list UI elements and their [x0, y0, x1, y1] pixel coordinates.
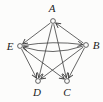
edge-E-B — [23, 43, 82, 46]
node-C — [65, 79, 70, 84]
node-label-C: C — [63, 86, 71, 98]
node-D — [36, 79, 41, 84]
figure-canvas: AEBDC — [0, 0, 103, 102]
node-label-B: B — [93, 39, 100, 51]
edge-B-A — [56, 23, 84, 43]
node-label-A: A — [48, 2, 56, 14]
node-A — [51, 19, 56, 24]
directed-graph-figure: AEBDC — [0, 0, 103, 102]
edge-B-E — [23, 46, 83, 51]
labels-layer: AEBDC — [6, 2, 100, 98]
node-B — [84, 43, 89, 48]
node-label-E: E — [6, 40, 14, 52]
node-E — [18, 44, 23, 49]
edge-A-E — [23, 23, 51, 44]
edge-E-D — [22, 49, 37, 78]
edges-layer — [22, 23, 85, 79]
node-label-D: D — [32, 86, 41, 98]
